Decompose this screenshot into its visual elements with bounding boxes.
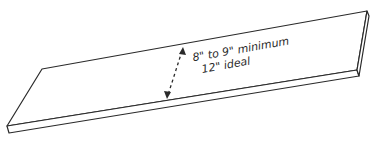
board-top-face [7, 11, 367, 126]
board-diagram: 8" to 9" minimum 12" ideal [0, 0, 376, 142]
